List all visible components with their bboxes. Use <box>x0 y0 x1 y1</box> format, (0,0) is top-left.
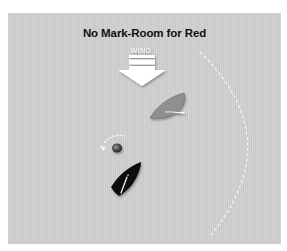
black-boat <box>111 162 141 196</box>
mark-icon <box>100 135 125 152</box>
red-boat <box>150 93 185 118</box>
wind-label: WIND <box>131 47 152 54</box>
rounding-arrow <box>104 135 125 144</box>
diagram-scene: WIND <box>0 0 287 251</box>
wind-arrow-icon: WIND <box>118 47 166 86</box>
zone-circle-arc <box>200 52 248 236</box>
